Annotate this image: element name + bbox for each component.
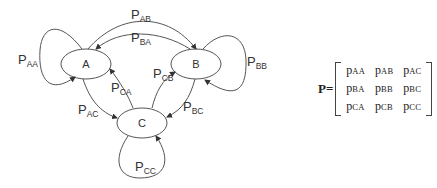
- edge-label-bb: PBB: [247, 54, 267, 71]
- matrix-cell: pCC: [398, 98, 426, 116]
- edge-label-cb: PCB: [153, 66, 174, 83]
- edge-label-ab: PAB: [131, 7, 151, 24]
- matrix-cell: pBC: [398, 80, 426, 98]
- edge-label-ca: PCA: [111, 80, 132, 97]
- edge-label-bc: PBC: [183, 99, 203, 116]
- matrix-row: pCA pCB pCC: [341, 98, 426, 116]
- edge-label-ac: PAC: [78, 102, 98, 119]
- matrix-table: pAA pAB pAC pBA pBB pBC pCA pCB pCC: [341, 62, 426, 116]
- edge-label-aa: PAA: [18, 52, 38, 69]
- transition-matrix: P= pAA pAB pAC pBA pBB pBC pCA pCB pCC: [318, 62, 432, 116]
- state-a-label: A: [82, 58, 90, 70]
- matrix-cell: pCB: [370, 98, 398, 116]
- matrix-row: pAA pAB pAC: [341, 62, 426, 80]
- matrix-cell: pAB: [370, 62, 398, 80]
- state-c-label: C: [138, 117, 146, 129]
- matrix-brackets: pAA pAB pAC pBA pBB pBC pCA pCB pCC: [335, 62, 432, 116]
- matrix-cell: pCA: [341, 98, 370, 116]
- matrix-cell: pAA: [341, 62, 370, 80]
- edge-label-cc: PCC: [135, 159, 156, 176]
- edge-bb: [203, 36, 246, 91]
- edge-aa: [40, 29, 82, 85]
- matrix-cell: pAC: [398, 62, 426, 80]
- right-bracket: [426, 62, 432, 116]
- edge-label-ba: PBA: [131, 30, 151, 47]
- state-b-label: B: [192, 58, 199, 70]
- matrix-row: pBA pBB pBC: [341, 80, 426, 98]
- state-transition-diagram: A B C PAA PAB PBA PBB PCB PCA PAC PBC PC…: [0, 0, 300, 188]
- matrix-name: P=: [318, 81, 333, 97]
- matrix-cell: pBB: [370, 80, 398, 98]
- matrix-cell: pBA: [341, 80, 370, 98]
